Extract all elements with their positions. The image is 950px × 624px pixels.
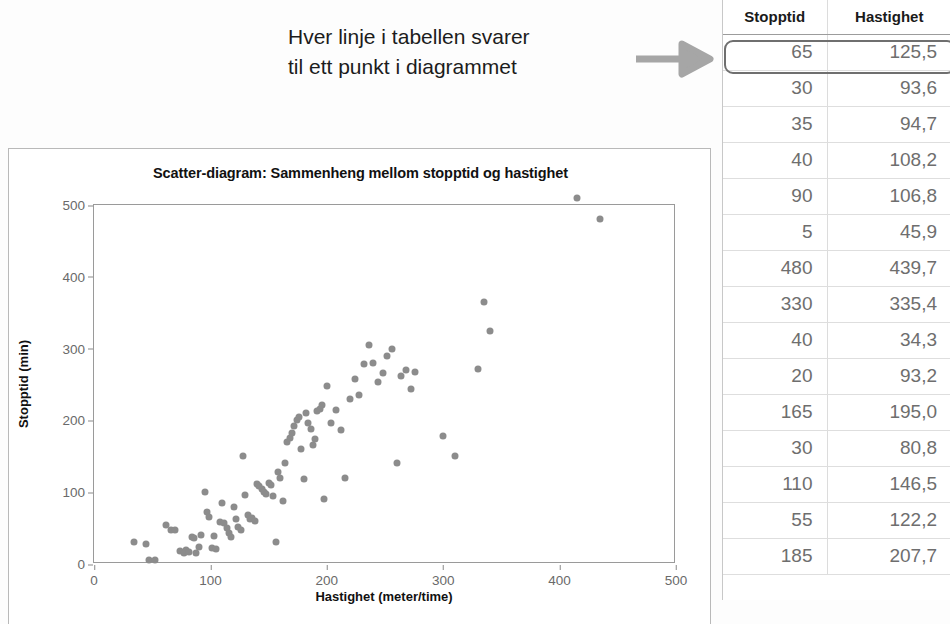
table-header-row: Stopptid Hastighet [723, 0, 950, 35]
cell-hastighet: 122,2 [827, 503, 950, 539]
scatter-point [337, 427, 344, 434]
scatter-point [307, 426, 314, 433]
scatter-point [574, 194, 581, 201]
y-axis-label: Stopptid (min) [16, 340, 31, 428]
scatter-point [239, 453, 246, 460]
scatter-point [186, 548, 193, 555]
cell-stopptid: 40 [723, 143, 827, 179]
table-row[interactable]: 4034,3 [723, 323, 950, 359]
scatter-point [370, 359, 377, 366]
scatter-point [407, 385, 414, 392]
table-row[interactable]: 3594,7 [723, 107, 950, 143]
scatter-point [393, 460, 400, 467]
scatter-point [267, 482, 274, 489]
scatter-point [277, 474, 284, 481]
x-tick-label-4: 400 [548, 573, 571, 588]
cell-stopptid: 40 [723, 323, 827, 359]
data-table-panel: Stopptid Hastighet 65125,53093,63594,740… [722, 0, 950, 600]
scatter-point [237, 526, 244, 533]
cell-hastighet: 34,3 [827, 323, 950, 359]
scatter-point [361, 361, 368, 368]
cell-stopptid: 165 [723, 395, 827, 431]
scatter-point [321, 496, 328, 503]
scatter-point [342, 474, 349, 481]
y-tick-label-0: 0 [77, 557, 85, 572]
cell-hastighet: 335,4 [827, 287, 950, 323]
scatter-point [270, 492, 277, 499]
table-row[interactable]: 480439,7 [723, 251, 950, 287]
scatter-point [486, 327, 493, 334]
scatter-point [206, 513, 213, 520]
column-header-stopptid: Stopptid [723, 0, 827, 35]
scatter-point [213, 545, 220, 552]
scatter-chart-card: Scatter-diagram: Sammenheng mellom stopp… [8, 148, 711, 624]
cell-stopptid: 90 [723, 179, 827, 215]
scatter-point [233, 516, 240, 523]
table-row[interactable]: 90106,8 [723, 179, 950, 215]
scatter-point [412, 368, 419, 375]
table-row[interactable]: 185207,7 [723, 539, 950, 575]
table-row[interactable]: 110146,5 [723, 467, 950, 503]
cell-stopptid: 35 [723, 107, 827, 143]
cell-hastighet: 45,9 [827, 215, 950, 251]
table-row[interactable]: 545,9 [723, 215, 950, 251]
cell-stopptid: 480 [723, 251, 827, 287]
y-tick-label-4: 400 [62, 269, 85, 284]
scatter-points-layer [94, 205, 674, 562]
y-tick-label-2: 200 [62, 413, 85, 428]
scatter-point [351, 375, 358, 382]
scatter-point [451, 453, 458, 460]
table-row[interactable]: 3093,6 [723, 71, 950, 107]
scatter-point [263, 490, 270, 497]
cell-stopptid: 185 [723, 539, 827, 575]
cell-stopptid: 55 [723, 503, 827, 539]
scatter-point [475, 365, 482, 372]
scatter-point [195, 543, 202, 550]
scatter-point [379, 370, 386, 377]
scatter-point [198, 532, 205, 539]
scatter-point [295, 413, 302, 420]
cell-stopptid: 330 [723, 287, 827, 323]
y-tick-label-5: 500 [62, 198, 85, 213]
table-body: 65125,53093,63594,740108,290106,8545,948… [723, 35, 950, 575]
scatter-point [398, 372, 405, 379]
scatter-point [230, 503, 237, 510]
table-row[interactable]: 2093,2 [723, 359, 950, 395]
cell-hastighet: 195,0 [827, 395, 950, 431]
column-header-hastighet: Hastighet [827, 0, 950, 35]
cell-hastighet: 125,5 [827, 35, 950, 71]
cell-hastighet: 146,5 [827, 467, 950, 503]
scatter-point [384, 352, 391, 359]
cell-hastighet: 80,8 [827, 431, 950, 467]
scatter-point [333, 406, 340, 413]
cell-stopptid: 30 [723, 431, 827, 467]
scatter-point [298, 446, 305, 453]
table-row[interactable]: 3080,8 [723, 431, 950, 467]
scatter-point [480, 298, 487, 305]
table-row[interactable]: 330335,4 [723, 287, 950, 323]
scatter-point [193, 550, 200, 557]
cell-hastighet: 439,7 [827, 251, 950, 287]
table-row[interactable]: 65125,5 [723, 35, 950, 71]
scatter-point [191, 535, 198, 542]
x-tick-label-5: 500 [665, 573, 688, 588]
scatter-point [302, 410, 309, 417]
table-row[interactable]: 55122,2 [723, 503, 950, 539]
cell-stopptid: 65 [723, 35, 827, 71]
cell-hastighet: 94,7 [827, 107, 950, 143]
scatter-point [597, 216, 604, 223]
scatter-point [228, 533, 235, 540]
x-tick-label-0: 0 [90, 573, 98, 588]
x-tick-label-2: 200 [316, 573, 339, 588]
scatter-point [402, 367, 409, 374]
data-table: Stopptid Hastighet 65125,53093,63594,740… [723, 0, 950, 575]
scatter-point [130, 539, 137, 546]
cell-hastighet: 108,2 [827, 143, 950, 179]
x-tick-label-3: 300 [432, 573, 455, 588]
cell-stopptid: 20 [723, 359, 827, 395]
cell-hastighet: 93,2 [827, 359, 950, 395]
scatter-point [319, 402, 326, 409]
table-row[interactable]: 40108,2 [723, 143, 950, 179]
table-row[interactable]: 165195,0 [723, 395, 950, 431]
plot-area: 01002003004005000100200300400500 [93, 204, 675, 563]
